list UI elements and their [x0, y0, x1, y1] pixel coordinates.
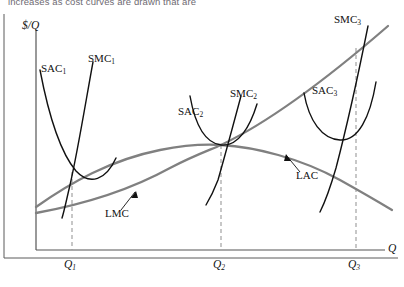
x-tick-q1: Q1	[64, 259, 76, 271]
sac2-curve	[190, 96, 257, 145]
sac1-label: SAC1	[41, 63, 66, 74]
cost-curves-figure: increases as cost curves are drawn that …	[0, 0, 404, 287]
y-axis-label: $/Q	[22, 20, 39, 32]
smc2-label: SMC2	[230, 88, 257, 99]
smc1-label: SMC1	[88, 53, 115, 64]
figure-frame	[4, 14, 398, 258]
x-tick-q3: Q3	[348, 259, 360, 271]
smc1-curve	[62, 62, 93, 218]
sac1-curve	[40, 70, 116, 179]
lmc-label: LMC	[105, 208, 129, 219]
sac2-label: SAC2	[178, 106, 203, 117]
x-tick-q2: Q2	[213, 259, 225, 271]
cost-curves-plot	[0, 0, 404, 287]
smc3-curve	[320, 26, 368, 212]
lac-label: LAC	[296, 170, 318, 181]
sac3-label: SAC3	[312, 85, 337, 96]
smc2-curve	[206, 96, 241, 205]
x-axis-label: Q	[388, 243, 396, 255]
smc3-label: SMC3	[334, 14, 361, 25]
